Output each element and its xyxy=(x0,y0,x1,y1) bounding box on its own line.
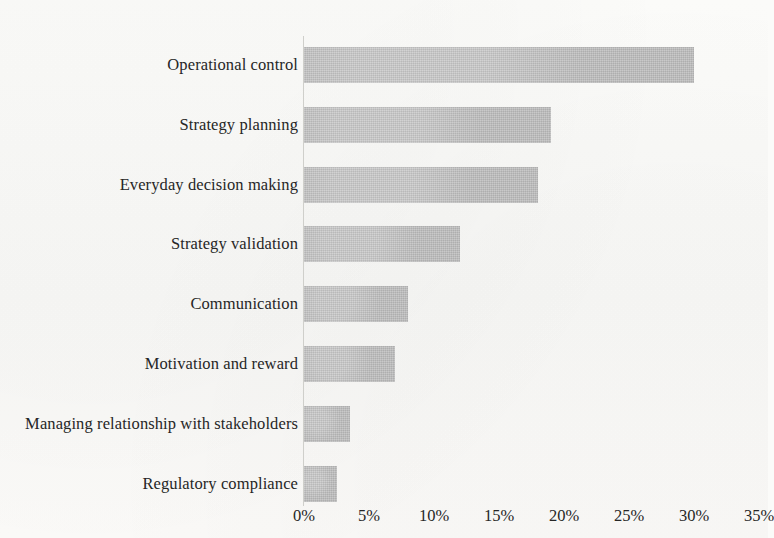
category-label: Operational control xyxy=(167,55,298,75)
bar xyxy=(304,47,694,83)
bar-row: Strategy validation xyxy=(0,226,768,262)
category-label: Strategy validation xyxy=(171,234,298,254)
x-tick-label: 25% xyxy=(614,506,644,526)
bar xyxy=(304,346,395,382)
bar xyxy=(304,167,538,203)
bar xyxy=(304,406,350,442)
x-tick-label: 10% xyxy=(419,506,449,526)
category-label: Managing relationship with stakeholders xyxy=(25,414,298,434)
bar xyxy=(304,107,551,143)
bar xyxy=(304,286,408,322)
bar-row: Operational control xyxy=(0,47,768,83)
x-tick-label: 0% xyxy=(293,506,315,526)
bar-row: Regulatory compliance xyxy=(0,466,768,502)
x-axis-tick-labels: 0%5%10%15%20%25%30%35% xyxy=(0,506,768,534)
x-tick-label: 30% xyxy=(679,506,709,526)
bar-row: Managing relationship with stakeholders xyxy=(0,406,768,442)
bar-row: Strategy planning xyxy=(0,107,768,143)
x-tick-label: 15% xyxy=(484,506,514,526)
x-tick-label: 5% xyxy=(358,506,380,526)
bar-row: Everyday decision making xyxy=(0,167,768,203)
category-label: Strategy planning xyxy=(179,115,298,135)
bar xyxy=(304,226,460,262)
bar-row: Communication xyxy=(0,286,768,322)
bar-row: Motivation and reward xyxy=(0,346,768,382)
category-label: Regulatory compliance xyxy=(142,474,298,494)
category-label: Communication xyxy=(190,294,298,314)
category-label: Everyday decision making xyxy=(120,175,298,195)
category-label: Motivation and reward xyxy=(145,354,298,374)
bar xyxy=(304,466,337,502)
x-tick-label: 20% xyxy=(549,506,579,526)
x-tick-label: 35% xyxy=(744,506,774,526)
